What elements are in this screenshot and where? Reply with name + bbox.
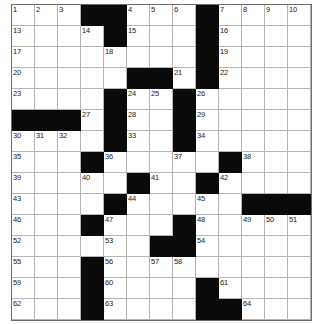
- letter-cell[interactable]: 6: [173, 5, 196, 26]
- letter-cell[interactable]: [196, 152, 219, 173]
- letter-cell[interactable]: [81, 47, 104, 68]
- letter-cell[interactable]: [265, 236, 288, 257]
- letter-cell[interactable]: 49: [242, 215, 265, 236]
- letter-cell[interactable]: 56: [104, 257, 127, 278]
- letter-cell[interactable]: [81, 68, 104, 89]
- letter-cell[interactable]: [58, 152, 81, 173]
- letter-cell[interactable]: 52: [12, 236, 35, 257]
- letter-cell[interactable]: [219, 236, 242, 257]
- letter-cell[interactable]: [242, 89, 265, 110]
- letter-cell[interactable]: 64: [242, 299, 265, 320]
- letter-cell[interactable]: [242, 236, 265, 257]
- letter-cell[interactable]: 30: [12, 131, 35, 152]
- letter-cell[interactable]: [35, 194, 58, 215]
- letter-cell[interactable]: [127, 257, 150, 278]
- letter-cell[interactable]: [150, 278, 173, 299]
- letter-cell[interactable]: [288, 68, 311, 89]
- letter-cell[interactable]: 57: [150, 257, 173, 278]
- letter-cell[interactable]: [150, 26, 173, 47]
- letter-cell[interactable]: 48: [196, 215, 219, 236]
- letter-cell[interactable]: [127, 47, 150, 68]
- letter-cell[interactable]: [104, 68, 127, 89]
- letter-cell[interactable]: [35, 173, 58, 194]
- letter-cell[interactable]: 18: [104, 47, 127, 68]
- letter-cell[interactable]: [58, 89, 81, 110]
- letter-cell[interactable]: 44: [127, 194, 150, 215]
- letter-cell[interactable]: [265, 26, 288, 47]
- letter-cell[interactable]: [288, 26, 311, 47]
- letter-cell[interactable]: 31: [35, 131, 58, 152]
- letter-cell[interactable]: [35, 257, 58, 278]
- letter-cell[interactable]: [242, 110, 265, 131]
- letter-cell[interactable]: 47: [104, 215, 127, 236]
- letter-cell[interactable]: 40: [81, 173, 104, 194]
- letter-cell[interactable]: [150, 299, 173, 320]
- letter-cell[interactable]: [288, 257, 311, 278]
- letter-cell[interactable]: [58, 299, 81, 320]
- letter-cell[interactable]: [288, 110, 311, 131]
- letter-cell[interactable]: [242, 26, 265, 47]
- letter-cell[interactable]: 23: [12, 89, 35, 110]
- letter-cell[interactable]: [196, 257, 219, 278]
- letter-cell[interactable]: [104, 173, 127, 194]
- letter-cell[interactable]: 20: [12, 68, 35, 89]
- letter-cell[interactable]: [58, 68, 81, 89]
- letter-cell[interactable]: 21: [173, 68, 196, 89]
- letter-cell[interactable]: [58, 278, 81, 299]
- letter-cell[interactable]: [242, 47, 265, 68]
- letter-cell[interactable]: [288, 299, 311, 320]
- letter-cell[interactable]: [219, 110, 242, 131]
- letter-cell[interactable]: [265, 89, 288, 110]
- letter-cell[interactable]: [35, 236, 58, 257]
- letter-cell[interactable]: [81, 194, 104, 215]
- letter-cell[interactable]: 37: [173, 152, 196, 173]
- letter-cell[interactable]: 26: [196, 89, 219, 110]
- letter-cell[interactable]: 29: [196, 110, 219, 131]
- crossword-grid[interactable]: 1234567891013141516171819202122232425262…: [11, 4, 312, 321]
- letter-cell[interactable]: [219, 215, 242, 236]
- letter-cell[interactable]: [288, 89, 311, 110]
- letter-cell[interactable]: [58, 173, 81, 194]
- letter-cell[interactable]: [35, 89, 58, 110]
- letter-cell[interactable]: [127, 278, 150, 299]
- letter-cell[interactable]: [242, 68, 265, 89]
- letter-cell[interactable]: [265, 110, 288, 131]
- letter-cell[interactable]: [265, 173, 288, 194]
- letter-cell[interactable]: [288, 236, 311, 257]
- letter-cell[interactable]: [288, 173, 311, 194]
- letter-cell[interactable]: 61: [219, 278, 242, 299]
- letter-cell[interactable]: 38: [242, 152, 265, 173]
- letter-cell[interactable]: [265, 278, 288, 299]
- letter-cell[interactable]: [58, 236, 81, 257]
- letter-cell[interactable]: [35, 26, 58, 47]
- letter-cell[interactable]: [242, 173, 265, 194]
- letter-cell[interactable]: 10: [288, 5, 311, 26]
- letter-cell[interactable]: [242, 278, 265, 299]
- letter-cell[interactable]: 1: [12, 5, 35, 26]
- letter-cell[interactable]: [81, 89, 104, 110]
- letter-cell[interactable]: 53: [104, 236, 127, 257]
- letter-cell[interactable]: [35, 278, 58, 299]
- letter-cell[interactable]: [150, 47, 173, 68]
- letter-cell[interactable]: 16: [219, 26, 242, 47]
- letter-cell[interactable]: 55: [12, 257, 35, 278]
- letter-cell[interactable]: 32: [58, 131, 81, 152]
- letter-cell[interactable]: [265, 47, 288, 68]
- letter-cell[interactable]: 28: [127, 110, 150, 131]
- letter-cell[interactable]: 27: [81, 110, 104, 131]
- letter-cell[interactable]: [219, 257, 242, 278]
- letter-cell[interactable]: [35, 68, 58, 89]
- letter-cell[interactable]: [127, 299, 150, 320]
- letter-cell[interactable]: [150, 131, 173, 152]
- letter-cell[interactable]: [150, 215, 173, 236]
- letter-cell[interactable]: [35, 47, 58, 68]
- letter-cell[interactable]: 7: [219, 5, 242, 26]
- letter-cell[interactable]: 3: [58, 5, 81, 26]
- letter-cell[interactable]: 62: [12, 299, 35, 320]
- letter-cell[interactable]: [58, 257, 81, 278]
- letter-cell[interactable]: 19: [219, 47, 242, 68]
- letter-cell[interactable]: 25: [150, 89, 173, 110]
- letter-cell[interactable]: 59: [12, 278, 35, 299]
- letter-cell[interactable]: 15: [127, 26, 150, 47]
- letter-cell[interactable]: [288, 278, 311, 299]
